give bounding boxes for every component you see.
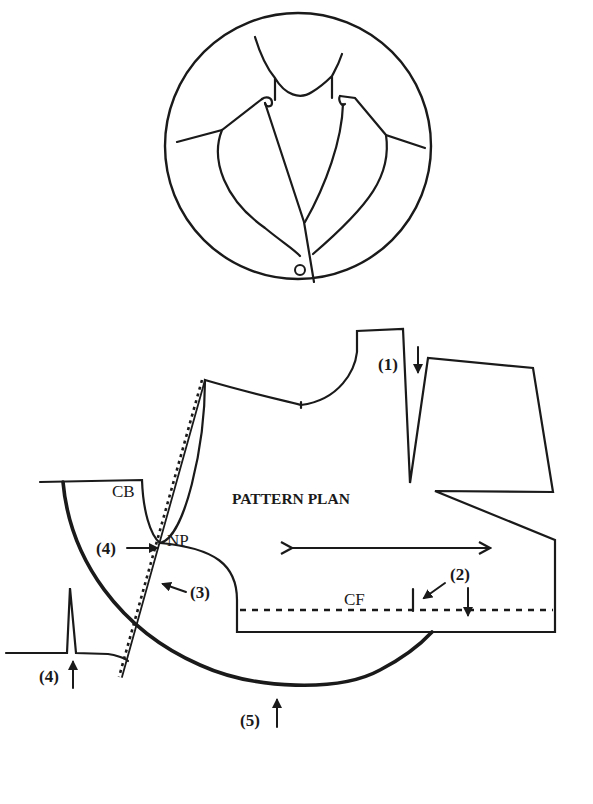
marker-2-arrow-diag (424, 583, 445, 598)
inset-circle (165, 13, 431, 279)
diagram-canvas: PATTERN PLAN CB NP CF (1) (2) (3) (4) (4… (0, 0, 593, 804)
left-collar-stand (262, 97, 272, 106)
label-np: NP (167, 531, 189, 550)
pattern-title: PATTERN PLAN (232, 490, 350, 507)
collar-style-line[interactable] (63, 482, 432, 685)
marker-4-upper: (4) (96, 539, 116, 558)
left-lapel (218, 130, 300, 256)
label-cf: CF (344, 590, 365, 609)
bodice-outline (160, 329, 555, 632)
label-cb: CB (112, 482, 135, 501)
roll-line (122, 380, 205, 677)
right-lapel (313, 135, 387, 254)
jacket-illustration (165, 13, 431, 282)
marker-5: (5) (240, 711, 260, 730)
right-shoulder (340, 96, 425, 148)
pattern-plan: PATTERN PLAN CB NP CF (1) (2) (3) (4) (4… (6, 329, 555, 730)
marker-3-arrow (163, 584, 186, 592)
neck-outline (255, 37, 342, 100)
back-collar-outline (40, 480, 160, 543)
right-front-edge (305, 104, 343, 222)
roll-line-dots (119, 380, 202, 677)
button-icon (295, 265, 305, 275)
marker-1: (1) (378, 355, 398, 374)
marker-4-lower: (4) (39, 667, 59, 686)
marker-3: (3) (190, 583, 210, 602)
left-front-edge (265, 103, 314, 282)
marker-2: (2) (450, 565, 470, 584)
